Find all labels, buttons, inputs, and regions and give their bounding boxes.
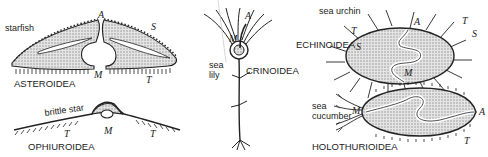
- starfish-label: starfish: [5, 24, 34, 33]
- ophiuroidea-marker-m: M: [104, 126, 112, 136]
- asteroidea-class-label: ASTEROIDEA: [14, 79, 75, 88]
- echinoidea-figure: [326, 10, 472, 100]
- asteroidea-marker-a: A: [98, 10, 104, 20]
- echinoidea-marker-a: A: [414, 17, 420, 27]
- holothurioidea-marker-m: M: [352, 106, 360, 116]
- sea-urchin-label: sea urchin: [319, 7, 361, 16]
- crinoidea-marker-m: M: [229, 34, 237, 44]
- echinoidea-marker-t-right: T: [462, 16, 468, 26]
- sea-lily-leader: [218, 0, 226, 62]
- sea-lily-label-line1: sea: [209, 61, 224, 70]
- ophiuroidea-marker-t-right: T: [150, 129, 156, 139]
- sea-lily-label-line2: lily: [209, 71, 220, 80]
- asteroidea-marker-s: S: [151, 22, 156, 32]
- asteroidea-marker-t: T: [146, 75, 152, 85]
- crinoidea-marker-a: A: [245, 11, 251, 21]
- echinoidea-class-label: ECHINOIDEA: [296, 40, 355, 49]
- ophiuroidea-marker-t-left: T: [64, 129, 70, 139]
- echinoidea-marker-s-right: S: [472, 29, 477, 39]
- asteroidea-marker-m: M: [94, 70, 102, 80]
- echinoidea-marker-m: M: [404, 68, 412, 78]
- sea-cucumber-label-line2: cucumber: [312, 112, 352, 121]
- holothurioidea-class-label: HOLOTHURIOIDEA: [312, 142, 398, 151]
- ophiuroidea-class-label: OPHIUROIDEA: [28, 142, 95, 151]
- sea-cucumber-label-line1: sea: [312, 102, 327, 111]
- holothurioidea-marker-t: T: [464, 136, 470, 146]
- holothurioidea-marker-a: A: [479, 107, 485, 117]
- crinoidea-class-label: CRINOIDEA: [246, 66, 299, 75]
- echinoidea-marker-s-left: S: [356, 42, 361, 52]
- echinoidea-marker-t-left: T: [351, 26, 357, 36]
